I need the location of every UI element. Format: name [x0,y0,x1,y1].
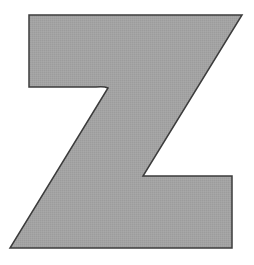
letter-z-canvas: Z [0,0,254,265]
letter-z-shape [10,15,242,248]
letter-z-figure: Z [0,0,254,265]
